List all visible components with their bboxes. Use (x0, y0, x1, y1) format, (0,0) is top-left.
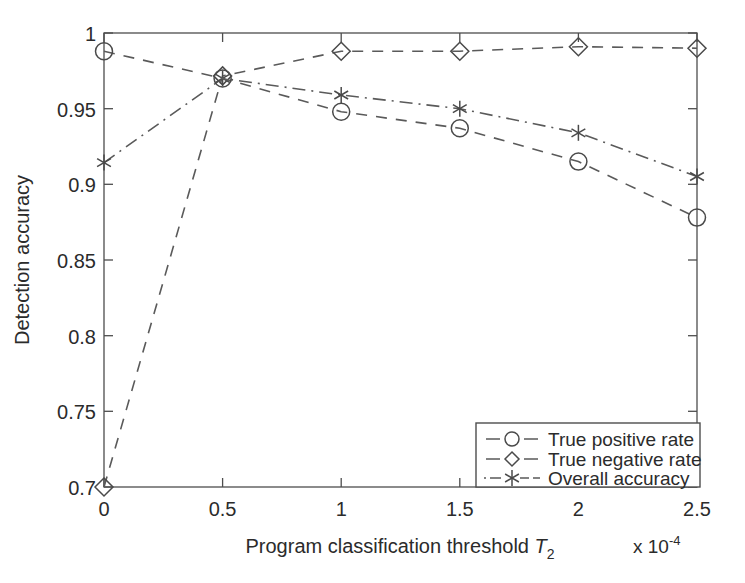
x-tick-label: 2.5 (683, 498, 711, 520)
x-axis-exponent-prefix: x 10 (633, 536, 669, 557)
y-tick-label: 0.7 (68, 477, 96, 499)
x-tick-label: 1 (336, 498, 347, 520)
x-tick-label: 0.5 (209, 498, 237, 520)
x-axis-title-main: Program classification threshold (245, 535, 534, 557)
series-line-true-positive-rate (104, 51, 697, 217)
y-tick-label: 0.85 (57, 250, 96, 272)
y-tick-label: 0.9 (68, 174, 96, 196)
y-tick-labels: 1 0.95 0.9 0.85 0.8 0.75 0.7 (57, 23, 96, 499)
series-line-true-negative-rate (104, 47, 697, 487)
y-tick-label: 0.95 (57, 99, 96, 121)
legend-label-overall-accuracy: Overall accuracy (548, 468, 690, 489)
x-tick-labels: 0 0.5 1 1.5 2 2.5 (98, 498, 710, 520)
series-line-overall-accuracy (104, 78, 697, 176)
y-axis-title: Detection accuracy (11, 175, 33, 345)
x-tick-label: 1.5 (446, 498, 474, 520)
x-axis-exponent-power: -4 (669, 533, 681, 548)
chart-legend[interactable]: True positive rate True negative rate Ov… (476, 423, 702, 489)
y-tick-label: 1 (85, 23, 96, 45)
legend-label-true-positive-rate: True positive rate (548, 429, 694, 450)
series-overall-accuracy (97, 70, 704, 184)
x-axis-exponent: x 10-4 (633, 533, 680, 557)
y-tick-label: 0.8 (68, 326, 96, 348)
x-tick-label: 2 (573, 498, 584, 520)
line-chart: 1 0.95 0.9 0.85 0.8 0.75 0.7 0 0.5 1 1.5… (0, 0, 745, 583)
x-axis-title-subscript: 2 (547, 546, 555, 562)
x-axis-title: Program classification threshold T2 (245, 535, 554, 562)
figure-container: 1 0.95 0.9 0.85 0.8 0.75 0.7 0 0.5 1 1.5… (0, 0, 745, 583)
legend-label-true-negative-rate: True negative rate (548, 449, 702, 470)
y-tick-label: 0.75 (57, 401, 96, 423)
x-tick-label: 0 (98, 498, 109, 520)
marker-asterisk-group (97, 70, 704, 184)
